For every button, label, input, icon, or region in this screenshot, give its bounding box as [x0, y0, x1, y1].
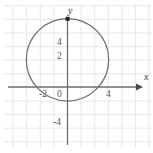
- coordinate-plane: [0, 0, 153, 153]
- y-tick-label-neg4: -4: [53, 117, 61, 127]
- x-axis: [8, 84, 143, 91]
- marked-point: [66, 17, 70, 21]
- y-axis-label: y: [68, 6, 72, 16]
- x-tick-label-neg2: -2: [39, 89, 47, 99]
- x-axis-label: x: [144, 72, 148, 82]
- grid-lines: [4, 5, 151, 148]
- x-tick-label-4: 4: [106, 89, 111, 99]
- y-tick-label-2: 2: [57, 51, 62, 61]
- origin-label: 0: [57, 89, 62, 99]
- graph-figure: -2 4 0 4 2 -4 x y: [0, 0, 153, 153]
- y-tick-label-4: 4: [57, 37, 62, 47]
